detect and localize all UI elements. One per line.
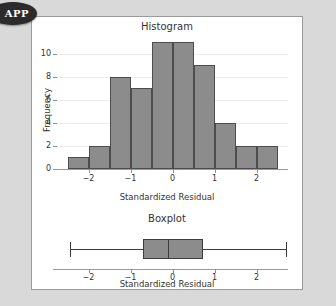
boxplot-whisker-cap-max: [286, 242, 287, 257]
figure-panel: Histogram Frequency: [31, 16, 303, 290]
boxplot-x-axis-title: Standardized Residual: [32, 279, 302, 289]
xtick-mark: [131, 169, 132, 173]
histogram-plot-area: [57, 35, 288, 171]
screenshot-root: { "badge": { "label": "APP", "icon": "ap…: [0, 0, 336, 306]
histogram-xtick-label: 2: [247, 174, 267, 183]
boxplot-plot-area: [57, 231, 288, 273]
histogram-ytick-label: 4: [32, 118, 51, 127]
histogram-ytick-label: 6: [32, 95, 51, 104]
ytick-mark: [53, 54, 57, 55]
histogram-ytick-label: 10: [32, 49, 51, 58]
histogram-bar: [68, 157, 89, 169]
histogram-bar: [236, 146, 257, 169]
boxplot-median-line: [168, 239, 169, 259]
histogram-ytick-label: 0: [32, 164, 51, 173]
xtick-mark: [215, 169, 216, 173]
ytick-mark: [53, 123, 57, 124]
histogram-title: Histogram: [32, 21, 302, 32]
histogram-xtick-label: 1: [205, 174, 225, 183]
ytick-mark: [53, 146, 57, 147]
histogram-bar: [110, 77, 131, 169]
histogram-bar: [215, 123, 236, 169]
histogram-bar: [194, 65, 215, 169]
histogram-bar: [173, 42, 194, 169]
histogram-bar: [131, 88, 152, 169]
histogram-bar: [152, 42, 173, 169]
histogram-xtick-label: −1: [121, 174, 141, 183]
histogram-ytick-label: 8: [32, 72, 51, 81]
histogram-chart: Histogram Frequency: [32, 17, 302, 195]
histogram-bar: [257, 146, 278, 169]
boxplot-box: [143, 239, 203, 259]
histogram-xtick-label: 0: [163, 174, 183, 183]
histogram-xtick-label: −2: [79, 174, 99, 183]
ytick-mark: [53, 169, 57, 170]
histogram-ytick-label: 2: [32, 141, 51, 150]
app-badge-label: APP: [0, 8, 29, 19]
boxplot-whisker-cap-min: [70, 242, 71, 257]
histogram-bar: [89, 146, 110, 169]
ytick-mark: [53, 77, 57, 78]
ytick-mark: [53, 100, 57, 101]
boxplot-title: Boxplot: [32, 213, 302, 224]
xtick-mark: [89, 169, 90, 173]
xtick-mark: [173, 169, 174, 173]
histogram-x-axis-title: Standardized Residual: [32, 192, 302, 202]
xtick-mark: [257, 169, 258, 173]
